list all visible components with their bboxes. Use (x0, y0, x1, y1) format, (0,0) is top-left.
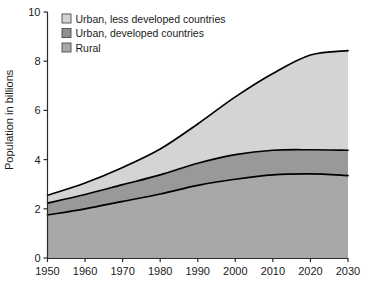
x-tick-label: 2000 (223, 265, 247, 277)
y-axis-title: Population in billions (3, 69, 15, 170)
legend-item: Rural (62, 42, 101, 54)
x-axis-tick-labels: 195019601970198019902000201020202030 (35, 265, 360, 277)
legend-swatch (62, 43, 71, 52)
y-tick-label: 6 (34, 104, 40, 116)
legend-label: Urban, less developed countries (76, 13, 226, 25)
x-tick-label: 2020 (298, 265, 322, 277)
y-tick-label: 4 (34, 154, 40, 166)
x-tick-label: 1950 (35, 265, 59, 277)
legend-item: Urban, developed countries (62, 27, 204, 39)
y-tick-label: 10 (28, 6, 40, 18)
x-tick-label: 2010 (261, 265, 285, 277)
x-tick-label: 1990 (186, 265, 210, 277)
y-tick-label: 2 (34, 203, 40, 215)
x-tick-label: 1970 (110, 265, 134, 277)
legend-item: Urban, less developed countries (62, 13, 226, 25)
y-tick-label: 0 (34, 252, 40, 264)
legend-swatch (62, 29, 71, 38)
x-tick-label: 2030 (336, 265, 360, 277)
x-tick-label: 1960 (73, 265, 97, 277)
chart-canvas: 0246810 19501960197019801990200020102020… (0, 0, 365, 282)
legend-label: Rural (76, 42, 101, 54)
legend-swatch (62, 14, 71, 23)
population-area-chart: 0246810 19501960197019801990200020102020… (0, 0, 365, 282)
x-tick-label: 1980 (148, 265, 172, 277)
legend-label: Urban, developed countries (76, 27, 204, 39)
y-tick-label: 8 (34, 55, 40, 67)
